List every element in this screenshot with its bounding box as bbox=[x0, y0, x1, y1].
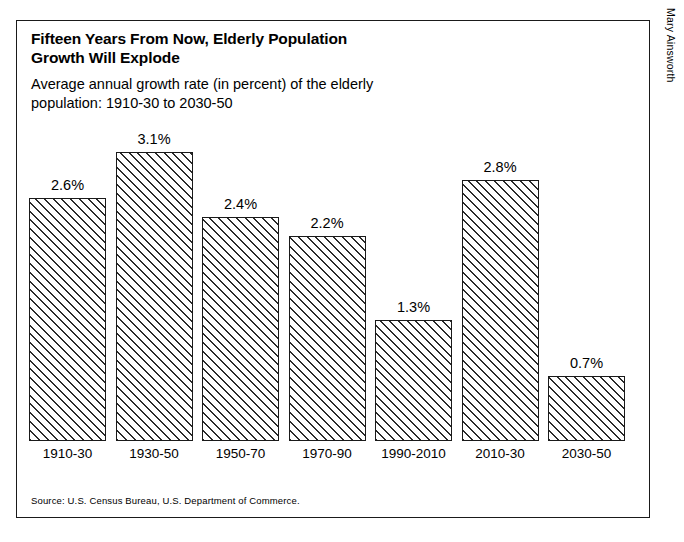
chart-subtitle: Average annual growth rate (in percent) … bbox=[31, 75, 611, 113]
x-axis-tick-label: 1950-70 bbox=[202, 445, 279, 462]
bar bbox=[116, 152, 193, 441]
bar bbox=[462, 180, 539, 441]
x-axis-tick-label: 1930-50 bbox=[116, 445, 193, 462]
bar-slot: 2.8% bbox=[462, 116, 539, 441]
bar-slot: 3.1% bbox=[116, 116, 193, 441]
page-root: Fifteen Years From Now, Elderly Populati… bbox=[0, 0, 684, 542]
x-axis-tick-label: 2010-30 bbox=[462, 445, 539, 462]
bar-value-label: 2.2% bbox=[310, 215, 343, 231]
title-block: Fifteen Years From Now, Elderly Populati… bbox=[31, 29, 591, 67]
bar-value-label: 2.6% bbox=[51, 177, 84, 193]
credit-label: Mary Ainsworth bbox=[657, 8, 677, 83]
bar bbox=[548, 376, 625, 441]
bar bbox=[375, 320, 452, 441]
bar bbox=[29, 198, 106, 441]
bar-value-label: 0.7% bbox=[570, 355, 603, 371]
bar-slot: 1.3% bbox=[375, 116, 452, 441]
x-axis-tick-label: 1990-2010 bbox=[375, 445, 452, 462]
x-axis-labels: 1910-301930-501950-701970-901990-2010201… bbox=[29, 445, 639, 462]
plot-area: 2.6%3.1%2.4%2.2%1.3%2.8%0.7% bbox=[29, 116, 639, 441]
bar bbox=[202, 217, 279, 441]
bar-series: 2.6%3.1%2.4%2.2%1.3%2.8%0.7% bbox=[29, 116, 639, 441]
bar-value-label: 1.3% bbox=[397, 299, 430, 315]
bar-slot: 2.4% bbox=[202, 116, 279, 441]
x-axis-tick-label: 1970-90 bbox=[289, 445, 366, 462]
x-axis-tick-label: 1910-30 bbox=[29, 445, 106, 462]
bar-slot: 2.2% bbox=[289, 116, 366, 441]
bar-slot: 0.7% bbox=[548, 116, 625, 441]
bar-value-label: 2.8% bbox=[483, 159, 516, 175]
bar-value-label: 3.1% bbox=[137, 131, 170, 147]
bar-value-label: 2.4% bbox=[224, 196, 257, 212]
bar bbox=[289, 236, 366, 441]
page-title: Fifteen Years From Now, Elderly Populati… bbox=[31, 29, 591, 67]
source-note: Source: U.S. Census Bureau, U.S. Departm… bbox=[31, 495, 300, 507]
chart-frame: Fifteen Years From Now, Elderly Populati… bbox=[16, 20, 650, 518]
x-axis-tick-label: 2030-50 bbox=[548, 445, 625, 462]
bar-slot: 2.6% bbox=[29, 116, 106, 441]
